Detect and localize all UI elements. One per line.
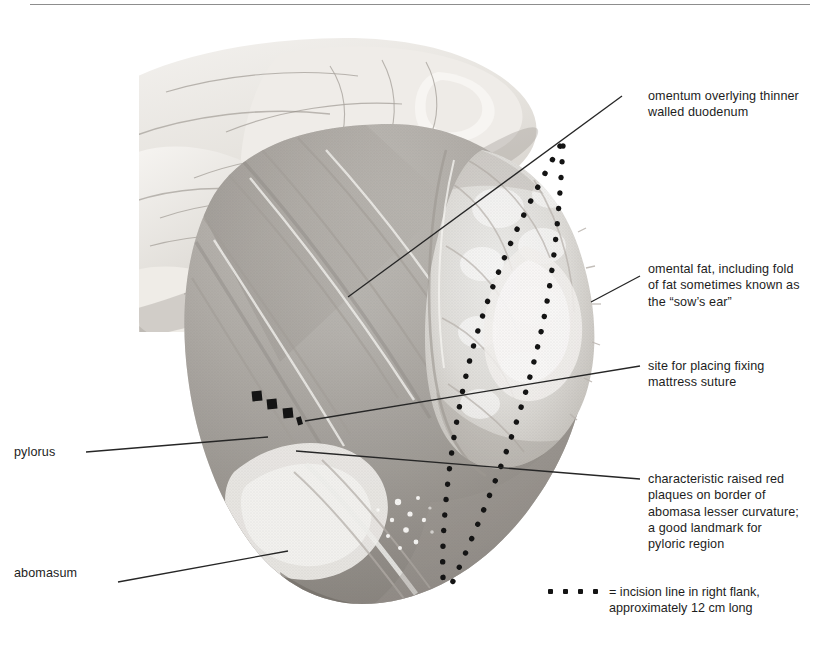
incision-line-legend: = incision line in right flank, approxim… (548, 584, 760, 617)
annotation-red-plaques: characteristic raised red plaques on bor… (648, 471, 828, 552)
legend-label: = incision line in right flank, approxim… (609, 584, 760, 617)
anatomy-photograph (130, 32, 630, 638)
dotted-line-icon (548, 584, 598, 594)
annotation-abomasum: abomasum (14, 565, 134, 581)
annotation-suture-site: site for placing fixing mattress suture (648, 358, 828, 391)
annotation-pylorus: pylorus (14, 444, 124, 460)
page-top-rule (30, 4, 810, 5)
annotation-omentum: omentum overlying thinner walled duodenu… (648, 88, 833, 121)
figure-page: omentum overlying thinner walled duodenu… (0, 0, 837, 646)
annotation-omental-fat: omental fat, including fold of fat somet… (648, 261, 837, 310)
